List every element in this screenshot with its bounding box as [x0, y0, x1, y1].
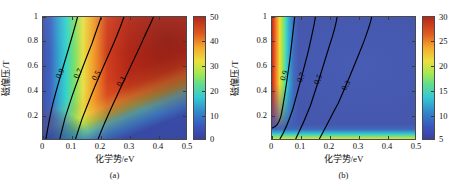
xtick-b-4: [388, 136, 389, 139]
ytick-r-a-08: [183, 41, 186, 42]
xtick-top-b-2: [330, 17, 331, 20]
xaxis-title-b: 化学势/eV: [271, 152, 416, 165]
xtick-b-1: [301, 136, 302, 139]
xtick-a-2: [101, 136, 102, 139]
xticklabel-b-4: 0.4: [382, 141, 393, 151]
ytick-r-b-02: [412, 116, 415, 117]
xtick-a-0: [43, 136, 44, 139]
ytick-r-b-04: [412, 91, 415, 92]
cbar-label-a-40: 40: [210, 36, 219, 46]
xtick-top-b-1: [301, 17, 302, 20]
yticklabel-a-04: 0.4: [27, 85, 38, 95]
ytick-r-a-04: [183, 91, 186, 92]
ytick-a-06: [43, 66, 46, 67]
yticklabel-b-02: 0.2: [256, 110, 267, 120]
cbar-label-a-30: 30: [210, 61, 219, 71]
cbar-label-b-15: 15: [439, 86, 448, 96]
yticklabel-b-06: 0.6: [256, 60, 267, 70]
xtick-top-a-4: [159, 17, 160, 20]
cbar-label-a-0: 0: [210, 134, 214, 144]
colorbar-b: [422, 16, 435, 140]
xtick-b-2: [330, 136, 331, 139]
yticklabel-b-08: 0.8: [256, 35, 267, 45]
xtick-top-a-2: [101, 17, 102, 20]
cbar-label-a-50: 50: [210, 12, 219, 22]
cbar-tick-b-25: [431, 41, 434, 42]
xticklabel-a-0: 0: [40, 141, 44, 151]
xticklabel-b-5: 0.5: [411, 141, 422, 151]
ytick-r-a-02: [183, 116, 186, 117]
xticklabel-a-3: 0.3: [124, 141, 135, 151]
ytick-a-08: [43, 41, 46, 42]
xtick-a-1: [72, 136, 73, 139]
yticklabel-a-02: 0.2: [27, 110, 38, 120]
xtick-top-a-1: [72, 17, 73, 20]
cbar-label-a-20: 20: [210, 86, 219, 96]
ytick-b-1: [272, 17, 275, 18]
yaxis-title-a: 磁偏压/T: [0, 61, 12, 96]
cbar-tick-a-30: [202, 66, 205, 67]
contour-lines-a: [43, 17, 186, 139]
xtick-b-0: [272, 136, 273, 139]
xticklabel-a-2: 0.2: [95, 141, 106, 151]
cbar-tick-b-15: [431, 91, 434, 92]
ytick-b-08: [272, 41, 275, 42]
ytick-a-02: [43, 116, 46, 117]
cbar-tick-a-20: [202, 91, 205, 92]
ytick-b-02: [272, 116, 275, 117]
xticklabel-b-0: 0: [269, 141, 273, 151]
xaxis-title-a: 化学势/eV: [42, 152, 187, 165]
xtick-a-4: [159, 136, 160, 139]
cbar-label-b-30: 30: [439, 12, 448, 22]
cbar-label-b-10: 10: [439, 111, 448, 121]
cbar-tick-b-10: [431, 116, 434, 117]
xticklabel-b-1: 0.1: [295, 141, 306, 151]
cbar-label-a-10: 10: [210, 111, 219, 121]
ytick-a-04: [43, 91, 46, 92]
xticklabel-b-2: 0.2: [324, 141, 335, 151]
cbar-tick-a-40: [202, 41, 205, 42]
xticklabel-b-3: 0.3: [353, 141, 364, 151]
cbar-label-b-25: 25: [439, 36, 448, 46]
ytick-b-04: [272, 91, 275, 92]
ytick-r-a-06: [183, 66, 186, 67]
yticklabel-b-04: 0.4: [256, 85, 267, 95]
yticklabel-a-08: 0.8: [27, 35, 38, 45]
figure-container: 0.9 0.7 0.5 0.3 0 0.1: [0, 0, 457, 192]
plot-area-a: 0.9 0.7 0.5 0.3: [42, 16, 187, 140]
panel-caption-a: (a): [42, 170, 187, 180]
ytick-b-06: [272, 66, 275, 67]
ytick-r-b-06: [412, 66, 415, 67]
xtick-b-3: [359, 136, 360, 139]
xticklabel-a-1: 0.1: [66, 141, 77, 151]
yticklabel-a-06: 0.6: [27, 60, 38, 70]
yaxis-title-b: 磁偏压/T: [228, 61, 241, 96]
cbar-label-b-5: 5: [439, 134, 443, 144]
xtick-top-a-3: [130, 17, 131, 20]
cbar-label-b-20: 20: [439, 61, 448, 71]
ytick-r-b-08: [412, 41, 415, 42]
panel-b: 0.9 0.7 0.5 0.3 0 0.1 0.2: [229, 0, 457, 192]
ytick-a-1: [43, 17, 46, 18]
xtick-top-b-3: [359, 17, 360, 20]
xticklabel-a-4: 0.4: [153, 141, 164, 151]
xtick-a-3: [130, 136, 131, 139]
yticklabel-b-1: 1: [263, 11, 267, 21]
panel-caption-b: (b): [271, 170, 416, 180]
xticklabel-a-5: 0.5: [182, 141, 193, 151]
cbar-tick-b-20: [431, 66, 434, 67]
xtick-top-b-4: [388, 17, 389, 20]
colorbar-a: [193, 16, 206, 140]
plot-area-b: 0.9 0.7 0.5 0.3: [271, 16, 416, 140]
cbar-tick-a-10: [202, 116, 205, 117]
yticklabel-a-1: 1: [34, 11, 38, 21]
panel-a: 0.9 0.7 0.5 0.3 0 0.1: [0, 0, 228, 192]
